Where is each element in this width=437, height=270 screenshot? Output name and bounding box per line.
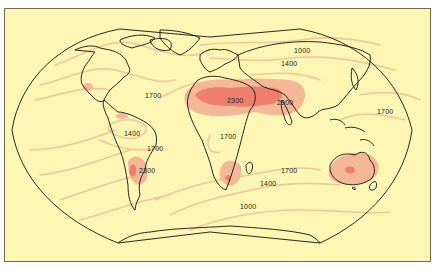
mexico-high: [83, 83, 93, 91]
contour-label-1000-southern: 1000: [240, 203, 256, 210]
contour-label-1700-africa: 1700: [220, 133, 236, 140]
contour-label-1000-north: 1000: [294, 47, 310, 54]
kalahari-low: [219, 161, 241, 186]
contour-label-1400-amazon: 1400: [124, 130, 140, 137]
contour-label-1700-indian: 1700: [281, 167, 297, 174]
contour-label-1400-north: 1400: [281, 60, 297, 67]
world-map: [0, 0, 437, 270]
venezuela-low: [116, 113, 128, 119]
contour-label-1700-brazil: 1700: [147, 145, 163, 152]
australia-high: [345, 167, 355, 174]
contour-label-2000-arabia: 2000: [277, 99, 293, 106]
contour-label-2300-sahara: 2300: [227, 97, 243, 104]
contour-label-2300-chaco: 2300: [139, 167, 155, 174]
contour-label-1700-atlantic: 1700: [145, 92, 161, 99]
contour-label-1700-pacific: 1700: [377, 108, 393, 115]
contour-label-1400-indian: 1400: [260, 180, 276, 187]
